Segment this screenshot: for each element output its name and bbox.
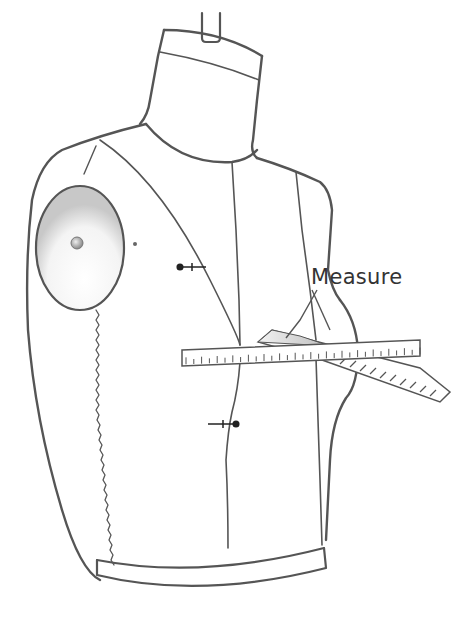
dot-marker (133, 242, 137, 246)
tape-measure (258, 330, 450, 402)
waistband (97, 548, 326, 586)
neck (140, 30, 262, 162)
armhole-knob (71, 237, 83, 249)
side-seam-stitching (96, 310, 114, 565)
pin-lower (208, 420, 239, 428)
dress-form-diagram (0, 0, 475, 625)
measure-pointers (286, 290, 330, 338)
measure-label: Measure (311, 265, 402, 289)
